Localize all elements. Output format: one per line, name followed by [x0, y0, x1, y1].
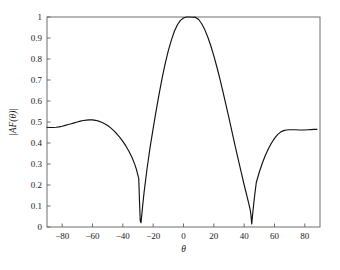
x-tick-label: −60 [85, 231, 100, 241]
y-axis-label: |AF(θ)| [8, 108, 19, 136]
x-tick-label: −20 [146, 231, 161, 241]
data-series-group [47, 17, 317, 224]
y-tick-label: 0.9 [31, 33, 43, 43]
array-factor-chart: −80−60−40−20020406080 00.10.20.30.40.50.… [0, 0, 340, 270]
y-tick-label: 0.3 [31, 159, 43, 169]
y-tick-label: 0.5 [31, 117, 43, 127]
x-tick-label: −80 [55, 231, 70, 241]
x-tick-label: −40 [116, 231, 131, 241]
y-tick-label: 0.4 [31, 138, 43, 148]
y-tick-label: 0.6 [31, 96, 43, 106]
x-tick-label: 80 [300, 231, 310, 241]
y-tick-label: 0.8 [31, 54, 43, 64]
y-tick-label: 0.1 [31, 201, 42, 211]
figure-container: −80−60−40−20020406080 00.10.20.30.40.50.… [0, 0, 340, 270]
y-axis-ticks: 00.10.20.30.40.50.60.70.80.91 [31, 12, 51, 232]
x-axis-ticks: −80−60−40−20020406080 [55, 224, 310, 242]
x-tick-label: 0 [181, 231, 186, 241]
plot-frame [47, 17, 320, 227]
x-tick-label: 40 [240, 231, 250, 241]
x-tick-label: 60 [270, 231, 280, 241]
x-tick-label: 20 [209, 231, 219, 241]
plot-frame-group [47, 17, 320, 227]
y-tick-label: 1 [38, 12, 43, 22]
y-tick-label: 0 [38, 222, 43, 232]
y-tick-label: 0.7 [31, 75, 43, 85]
y-tick-label: 0.2 [31, 180, 42, 190]
data-curve [47, 17, 317, 224]
x-axis-label: θ [181, 244, 186, 254]
